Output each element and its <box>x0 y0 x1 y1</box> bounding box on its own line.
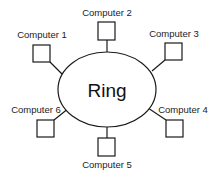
computer-6-box <box>37 120 54 137</box>
computer-2-box <box>98 22 115 40</box>
computer-5-label: Computer 5 <box>82 159 132 170</box>
computer-2-label: Computer 2 <box>82 7 132 18</box>
computer-4-label: Computer 4 <box>158 104 208 115</box>
link-computer-3 <box>152 60 165 71</box>
computer-1-label: Computer 1 <box>17 29 67 40</box>
computer-3-label: Computer 3 <box>149 28 199 39</box>
computer-3-box <box>165 43 182 60</box>
ring-topology-diagram: Ring Computer 1 Computer 2 Computer 3 Co… <box>0 0 212 181</box>
computer-5-box <box>98 138 115 156</box>
computer-4-box <box>166 120 183 137</box>
link-computer-1 <box>50 62 62 74</box>
computer-6-label: Computer 6 <box>11 104 61 115</box>
computer-1-box <box>33 45 50 62</box>
ring-label: Ring <box>87 80 126 101</box>
